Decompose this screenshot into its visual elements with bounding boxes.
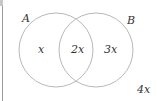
region-b-only: 3x: [104, 44, 117, 55]
set-b-label: B: [127, 15, 135, 26]
region-outside: 4x: [137, 84, 150, 95]
region-a-only: x: [38, 44, 44, 55]
region-intersection: 2x: [71, 44, 84, 55]
set-a-label: A: [22, 13, 30, 24]
